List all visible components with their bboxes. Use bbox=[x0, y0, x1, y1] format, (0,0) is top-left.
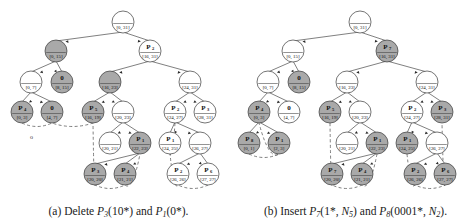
node-label: P bbox=[91, 166, 96, 174]
tree-node[interactable]: P6[27, 27] bbox=[434, 163, 456, 185]
node-label: P bbox=[201, 104, 206, 112]
panel-a-delete: [0, 31][0, 15]P2[16, 31][0, 7]0[8, 15][1… bbox=[0, 0, 237, 223]
tree-node[interactable]: [20, 21] bbox=[336, 132, 358, 154]
tree-node[interactable]: [0, 7] bbox=[20, 71, 42, 93]
tree-node[interactable]: [0, 7] bbox=[257, 71, 279, 93]
tree-node[interactable]: P4[21, 21] bbox=[351, 163, 373, 185]
node-label: P bbox=[358, 166, 363, 174]
node-label: P bbox=[204, 166, 209, 174]
caption-a-item-0: P3(10*) bbox=[97, 205, 133, 217]
tree-edge bbox=[110, 61, 150, 74]
tree-node[interactable]: P2[26, 26] bbox=[404, 163, 426, 185]
node-label: P bbox=[326, 104, 331, 112]
tree-edge bbox=[110, 122, 123, 134]
tree-edge bbox=[56, 32, 123, 43]
tree-node[interactable]: P5[16, 19] bbox=[82, 101, 104, 123]
figure-container: [0, 31][0, 15]P2[16, 31][0, 7]0[8, 15][1… bbox=[0, 0, 474, 223]
caption-b-item-0: P7(1*, N5) bbox=[309, 205, 357, 217]
caption-b-item-1: P8(0001*, N2) bbox=[379, 205, 444, 217]
node-label: P bbox=[408, 104, 413, 112]
tree-node[interactable]: P1[24, 25] bbox=[396, 132, 418, 154]
tree-node[interactable]: [26, 27] bbox=[189, 132, 211, 154]
tree-edge bbox=[95, 153, 140, 166]
tree-node[interactable]: [0, 31] bbox=[349, 11, 371, 33]
tree-node[interactable]: 0[8, 15] bbox=[288, 71, 310, 93]
tree-node[interactable]: P1[2, 3] bbox=[268, 132, 290, 154]
tree-node[interactable]: [0, 15] bbox=[45, 40, 67, 62]
tree-node[interactable]: P8[0, 1] bbox=[238, 132, 260, 154]
tree-node[interactable]: [24, 31] bbox=[179, 71, 201, 93]
node-label: 0 bbox=[287, 104, 291, 112]
node-label: P bbox=[438, 104, 443, 112]
tree-node[interactable]: P3[28, 31] bbox=[194, 101, 216, 123]
tree-node[interactable]: P2[26, 26] bbox=[167, 163, 189, 185]
tree-node[interactable]: P3[20, 20] bbox=[84, 163, 106, 185]
tree-node[interactable]: [20, 21] bbox=[99, 132, 121, 154]
caption-a: (a) Delete P3(10*) and P1(0*). bbox=[0, 205, 237, 219]
tree-diagram-a: [0, 31][0, 15]P2[16, 31][0, 7]0[8, 15][1… bbox=[0, 0, 237, 196]
tree-node[interactable]: [0, 15] bbox=[282, 40, 304, 62]
node-label: P bbox=[373, 135, 378, 143]
tree-node[interactable]: P7[16, 31] bbox=[376, 40, 398, 62]
caption-b-verb: Insert bbox=[280, 205, 306, 217]
node-label: 0 bbox=[297, 74, 301, 82]
tree-node[interactable]: 0[4, 7] bbox=[41, 101, 63, 123]
node-label: P bbox=[275, 135, 280, 143]
tree-node[interactable]: P4[0, 3] bbox=[248, 101, 270, 123]
caption-b-and: and bbox=[360, 205, 377, 217]
node-label: P bbox=[18, 104, 23, 112]
node-label: P bbox=[255, 104, 260, 112]
tree-node[interactable]: P6[27, 27] bbox=[197, 163, 219, 185]
tree-node[interactable]: 0[8, 15] bbox=[51, 71, 73, 93]
caption-b-prefix: (b) bbox=[264, 205, 277, 217]
tree-node[interactable]: P7[20, 20] bbox=[321, 163, 343, 185]
caption-a-verb: Delete bbox=[64, 205, 94, 217]
tree-node[interactable]: P1[22, 23] bbox=[366, 132, 388, 154]
tree-edge bbox=[293, 32, 360, 43]
node-label: 0 bbox=[60, 74, 64, 82]
node-label: P bbox=[121, 166, 126, 174]
tree-edge bbox=[387, 61, 427, 74]
tree-node[interactable]: P2[24, 27] bbox=[401, 101, 423, 123]
node-label: P bbox=[136, 135, 141, 143]
tree-node[interactable]: P1[22, 23] bbox=[129, 132, 151, 154]
tree-node[interactable]: P3[28, 31] bbox=[431, 101, 453, 123]
tree-node[interactable]: [24, 31] bbox=[416, 71, 438, 93]
stray-mark: o bbox=[30, 134, 33, 140]
tree-node[interactable]: [20, 23] bbox=[112, 101, 134, 123]
panel-b-insert: [0, 31][0, 15]P7[16, 31][0, 7]0[8, 15][1… bbox=[237, 0, 474, 223]
node-label: P bbox=[245, 135, 250, 143]
node-label: P bbox=[328, 166, 333, 174]
tree-node[interactable]: [20, 23] bbox=[349, 101, 371, 123]
node-label: P bbox=[166, 135, 171, 143]
tree-node[interactable]: P1[24, 25] bbox=[159, 132, 181, 154]
tree-node[interactable]: [16, 23] bbox=[336, 71, 358, 93]
node-label: P bbox=[146, 43, 151, 51]
tree-node[interactable]: P2[16, 31] bbox=[139, 40, 161, 62]
tree-node[interactable]: P4[21, 21] bbox=[114, 163, 136, 185]
caption-a-prefix: (a) bbox=[49, 205, 62, 217]
tree-node[interactable]: 0[4, 7] bbox=[278, 101, 300, 123]
tree-node[interactable]: [26, 27] bbox=[426, 132, 448, 154]
tree-node[interactable]: P2[24, 27] bbox=[164, 101, 186, 123]
tree-node[interactable]: P4[0, 3] bbox=[11, 101, 33, 123]
caption-a-and: and bbox=[136, 205, 153, 217]
tree-edge bbox=[347, 61, 387, 74]
caption-a-item-1: P1(0*) bbox=[155, 205, 185, 217]
caption-b: (b) Insert P7(1*, N5) and P8(0001*, N2). bbox=[237, 205, 474, 219]
node-label: P bbox=[441, 166, 446, 174]
node-label: P bbox=[411, 166, 416, 174]
tree-node[interactable]: P5[16, 19] bbox=[319, 101, 341, 123]
tree-edge bbox=[332, 153, 377, 166]
node-label: P bbox=[89, 104, 94, 112]
tree-edge bbox=[347, 122, 360, 134]
node-label: P bbox=[171, 104, 176, 112]
tree-edge bbox=[150, 61, 190, 74]
tree-node[interactable]: [0, 31] bbox=[112, 11, 134, 33]
tree-diagram-b: [0, 31][0, 15]P7[16, 31][0, 7]0[8, 15][1… bbox=[237, 0, 474, 196]
node-label: 0 bbox=[50, 104, 54, 112]
node-label: P bbox=[174, 166, 179, 174]
node-label: P bbox=[383, 43, 388, 51]
tree-node[interactable]: [16, 23] bbox=[99, 71, 121, 93]
node-label: P bbox=[403, 135, 408, 143]
